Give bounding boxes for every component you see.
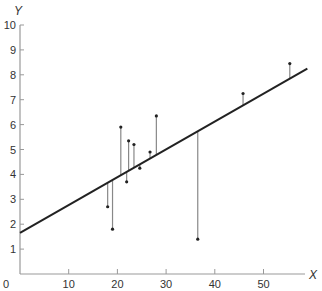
origin-label: 0	[3, 278, 9, 290]
y-tick-label: 3	[10, 193, 16, 205]
data-point	[148, 150, 151, 153]
data-point	[125, 180, 128, 183]
y-axis-title: Y	[14, 4, 23, 18]
y-tick-label: 6	[10, 119, 16, 131]
data-point	[111, 228, 114, 231]
x-ticks: 1020304050	[63, 269, 270, 290]
data-point	[241, 92, 244, 95]
x-tick-label: 50	[257, 278, 269, 290]
y-ticks: 12345678910	[4, 19, 24, 255]
x-tick-label: 20	[111, 278, 123, 290]
data-point	[138, 167, 141, 170]
y-tick-label: 10	[4, 19, 16, 31]
x-tick-label: 30	[160, 278, 172, 290]
y-tick-label: 1	[10, 243, 16, 255]
x-axis-title: X	[308, 268, 318, 282]
x-tick-label: 40	[209, 278, 221, 290]
data-point	[196, 238, 199, 241]
data-point	[288, 62, 291, 65]
data-point	[106, 205, 109, 208]
y-tick-label: 9	[10, 44, 16, 56]
residual-lines	[108, 64, 290, 240]
y-tick-label: 2	[10, 218, 16, 230]
y-tick-label: 8	[10, 69, 16, 81]
y-tick-label: 7	[10, 94, 16, 106]
data-point	[127, 139, 130, 142]
y-tick-label: 4	[10, 168, 16, 180]
data-point	[132, 143, 135, 146]
data-point	[155, 114, 158, 117]
scatter-chart: 1020304050 12345678910 Y X 0	[0, 0, 322, 291]
regression-line	[20, 69, 307, 233]
axes: 1020304050 12345678910 Y X 0	[3, 4, 318, 290]
x-tick-label: 10	[63, 278, 75, 290]
data-point	[119, 125, 122, 128]
y-tick-label: 5	[10, 144, 16, 156]
